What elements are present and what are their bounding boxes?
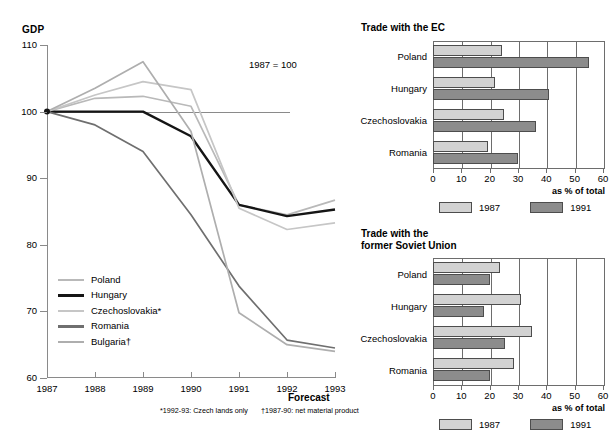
legend-label: Romania [91,321,129,331]
bar-x-tick-label: 40 [534,390,558,401]
y-tick [40,178,47,179]
bar-group [433,354,605,386]
legend-label: Bulgaria† [91,337,131,347]
y-tick-label: 110 [15,40,37,49]
trade-soviet-panel: Trade with the former Soviet Union Polan… [357,228,610,430]
trade-soviet-title-line2: former Soviet Union [361,240,610,252]
trade-ec-panel: Trade with the EC PolandHungaryCzechoslo… [357,22,610,213]
bar-group [433,73,605,105]
legend-swatch [58,310,84,312]
bar [433,338,505,349]
bar-x-tick-label: 20 [478,173,502,184]
bar-x-tick-label: 0 [421,173,445,184]
x-tick [143,372,144,378]
x-tick-label: 1987 [27,383,67,394]
bar [433,294,521,305]
legend-label: Czechoslovakia* [91,306,161,316]
legend-swatch [58,341,84,343]
bar-x-tick-label: 10 [449,173,473,184]
legend-swatch-1987 [439,202,472,213]
bar-category-label: Romania [357,137,432,169]
bar-x-tick-label: 60 [591,390,610,401]
trade-ec-category-labels: PolandHungaryCzechoslovakiaRomania [357,41,432,169]
bar [433,358,514,369]
trade-soviet-bar-rows [433,258,605,386]
trade-soviet-unit-label: as % of total [357,403,605,413]
baseline-annotation: 1987 = 100 [249,59,297,70]
legend-swatch [58,294,84,297]
trade-soviet-title: Trade with the former Soviet Union [361,228,610,251]
bar-x-tick-label: 30 [506,173,530,184]
line-series [47,82,335,230]
legend-item: Hungary [58,288,161,304]
trade-ec-bar-rows [433,41,605,169]
legend-label-1987: 1987 [479,419,500,430]
bar [433,326,532,337]
y-tick-label: 90 [15,173,37,182]
footnote: *1992-93: Czech lands only [160,406,248,415]
bar-x-tick-label: 30 [506,390,530,401]
bar [433,121,536,132]
x-tick [95,372,96,378]
bar-group [433,322,605,354]
y-axis-title: GDP [22,24,44,35]
bar [433,45,502,56]
x-tick-label: 1988 [75,383,115,394]
y-tick [40,378,47,379]
bar-x-tick-label: 50 [563,173,587,184]
legend-swatch [58,325,84,328]
y-tick-label: 70 [15,306,37,315]
trade-soviet-x-axis: 0102030405060 [433,386,605,402]
bar-group [433,41,605,73]
legend-item: Bulgaria† [58,334,161,350]
bar [433,77,495,88]
legend-label-1987: 1987 [479,202,500,213]
trade-ec-unit-label: as % of total [357,186,605,196]
bar-group [433,290,605,322]
bar-x-tick-label: 10 [449,390,473,401]
x-tick-label: 1989 [123,383,163,394]
line-series [47,112,335,217]
trade-ec-title-line1: Trade with the EC [361,22,610,34]
y-tick [40,311,47,312]
y-tick [40,112,47,113]
bar-category-label: Czechoslovakia [357,105,432,137]
legend-item: Poland [58,272,161,288]
trade-soviet-title-line1: Trade with the [361,228,610,240]
bar-x-tick-label: 50 [563,390,587,401]
x-tick [335,372,336,378]
bar-category-label: Poland [357,258,432,290]
legend-item: Czechoslovakia* [58,303,161,319]
bar [433,274,490,285]
legend-label-1991: 1991 [570,202,591,213]
bar-x-tick-label: 60 [591,173,610,184]
footnotes: *1992-93: Czech lands only†1987-90: net … [160,406,372,415]
trade-ec-title: Trade with the EC [361,22,610,34]
bar [433,109,504,120]
legend-item: Romania [58,319,161,335]
legend-swatch-1991 [530,419,563,430]
bar-category-label: Romania [357,354,432,386]
legend-label-1991: 1991 [570,419,591,430]
gdp-line-chart-panel: GDP 60708090100110 198719881989199019911… [0,0,352,427]
y-tick [40,245,47,246]
legend-swatch-1987 [439,419,472,430]
x-tick [239,372,240,378]
bar-x-tick-label: 20 [478,390,502,401]
legend-swatch-1991 [530,202,563,213]
legend-swatch [58,279,84,281]
bar-category-label: Hungary [357,73,432,105]
trade-ec-x-axis: 0102030405060 [433,169,605,185]
forecast-label: Forecast [288,392,330,403]
x-tick-label: 1990 [171,383,211,394]
bar [433,370,490,381]
y-tick [40,45,47,46]
trade-soviet-category-labels: PolandHungaryCzechoslovakiaRomania [357,258,432,386]
line-series [47,96,335,215]
x-tick [47,372,48,378]
x-tick-label: 1991 [219,383,259,394]
bar-category-label: Czechoslovakia [357,322,432,354]
trade-ec-legend: 1987 1991 [357,202,610,213]
bar-category-label: Hungary [357,290,432,322]
bar-group [433,258,605,290]
